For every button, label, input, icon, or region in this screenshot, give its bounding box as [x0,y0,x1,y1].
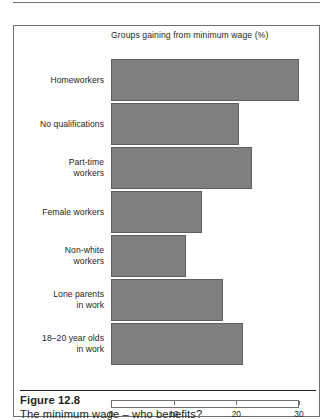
caption-text: The minimum wage – who benefits? [20,408,316,420]
caption-title: Figure 12.8 [20,394,316,407]
bar-category-label-line: Part-time [69,157,104,168]
figure-page: Groups gaining from minimum wage (%) Hom… [0,0,332,420]
bar-category-label-line: Lone parents [53,289,104,300]
page-top-rule [13,2,320,3]
bar [111,323,243,365]
bar-category-label-line: in work [76,344,104,355]
bar-category-label: Non-whiteworkers [14,235,104,277]
figure-caption: Figure 12.8 The minimum wage – who benef… [20,390,316,420]
bar [111,59,299,101]
bar-category-label-line: in work [76,300,104,311]
bar [111,191,202,233]
bar-category-label: Part-timeworkers [14,147,104,189]
bar [111,235,186,277]
chart-axis-title: Groups gaining from minimum wage (%) [111,30,281,40]
bar-category-label: Lone parentsin work [14,279,104,321]
bar-category-label-line: Non-white [65,245,104,256]
plot-region: HomeworkersNo qualificationsPart-timewor… [14,59,319,369]
bar-row: Homeworkers [14,59,319,101]
bar-category-label-line: 18–20 year olds [42,333,104,344]
bar-row: No qualifications [14,103,319,145]
bar-row: Female workers [14,191,319,233]
bar-row: Lone parentsin work [14,279,319,321]
bar-category-label-line: workers [74,256,104,267]
bar-category-label: Homeworkers [14,59,104,101]
bar [111,279,223,321]
bar-category-label: 18–20 year oldsin work [14,323,104,365]
bar-category-label-line: workers [74,168,104,179]
bar-row: 18–20 year oldsin work [14,323,319,365]
bar-row: Part-timeworkers [14,147,319,189]
caption-divider [20,390,316,391]
bar-category-label-line: Female workers [42,207,104,218]
bar [111,147,252,189]
bar [111,103,239,145]
figure-box: Groups gaining from minimum wage (%) Hom… [13,25,320,417]
bar-category-label-line: Homeworkers [50,75,104,86]
bar-rows: HomeworkersNo qualificationsPart-timewor… [14,59,319,367]
bar-category-label-line: No qualifications [40,119,104,130]
chart-area: Groups gaining from minimum wage (%) Hom… [14,26,319,389]
bar-row: Non-whiteworkers [14,235,319,277]
bar-category-label: No qualifications [14,103,104,145]
bar-category-label: Female workers [14,191,104,233]
